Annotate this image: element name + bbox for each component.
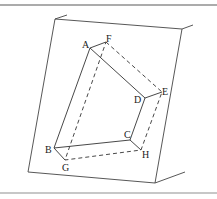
label-E: E — [162, 86, 168, 97]
label-D: D — [134, 94, 141, 105]
label-F: F — [106, 33, 112, 44]
label-H: H — [142, 149, 149, 160]
label-A: A — [82, 39, 90, 50]
solid-edges — [54, 42, 162, 160]
diagram-canvas: A F E D C H B G — [0, 0, 217, 199]
label-B: B — [45, 144, 52, 155]
label-C: C — [124, 129, 131, 140]
hidden-edges — [65, 42, 162, 160]
label-G: G — [62, 162, 69, 173]
